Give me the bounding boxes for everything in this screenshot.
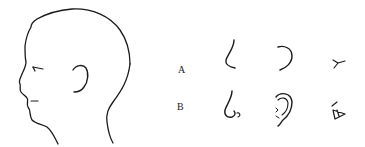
ear-simple-icon (278, 46, 292, 70)
nose-simple-icon (226, 40, 235, 68)
diagram-canvas: A B (0, 0, 365, 147)
row-b-features (225, 91, 345, 126)
head-profile (19, 9, 130, 144)
row-a-features (226, 40, 345, 70)
row-label-b: B (177, 101, 184, 112)
eye-simple-icon (333, 60, 345, 68)
eye-detailed-icon (332, 102, 345, 119)
nose-detailed-icon (225, 91, 235, 117)
row-label-a: A (178, 64, 185, 75)
